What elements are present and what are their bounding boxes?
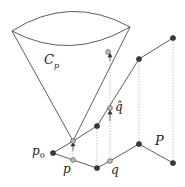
point-p (71, 158, 76, 163)
light-points (71, 50, 113, 164)
point-upper-2 (94, 123, 99, 128)
point-cone-apex (71, 139, 76, 144)
point-lower-4 (136, 141, 141, 146)
label-q-hat: q̂ (115, 101, 123, 113)
cone-left-edge (12, 31, 73, 141)
point-q-hat (108, 106, 113, 111)
diagram-canvas: Cp p0 p q q̂ P (0, 0, 185, 187)
label-P: P (155, 134, 164, 147)
point-p0 (50, 150, 55, 155)
arrow-up-icon (108, 111, 112, 115)
label-cone: Cp (44, 53, 59, 70)
point-upper-5 (170, 35, 175, 40)
cone-top-arc (12, 11, 130, 31)
label-p0: p0 (32, 145, 45, 160)
point-lower-2 (94, 165, 99, 170)
label-p: p (63, 163, 71, 175)
point-upper-4 (136, 56, 141, 61)
diagram-svg (0, 0, 185, 187)
cone-bottom-arc (12, 27, 130, 46)
point-lower-5 (170, 160, 175, 165)
cone-shape (12, 11, 130, 141)
cone-right-edge (73, 27, 130, 141)
arrows (71, 54, 112, 152)
dark-points (50, 35, 175, 170)
label-q: q (111, 164, 119, 176)
point-top-light (106, 50, 111, 55)
